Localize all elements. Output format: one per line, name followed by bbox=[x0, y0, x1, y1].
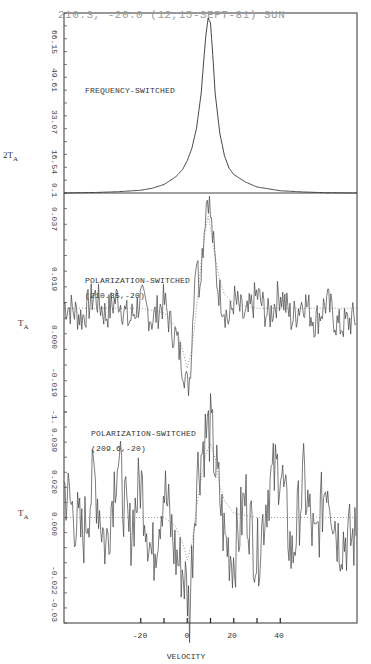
panel-1-ylabel-sub: A bbox=[13, 155, 18, 163]
panel-1-ytick: 49.61 bbox=[50, 68, 59, 92]
panel-3-ytick: 0.020 bbox=[50, 470, 59, 494]
panel-2-title: POLARIZATION-SWITCHED bbox=[85, 276, 190, 285]
panel-3-ytick: 0.000 bbox=[50, 512, 59, 536]
frequency-switched-curve bbox=[64, 18, 357, 193]
panel-2-subtitle: (210.35,-20) bbox=[85, 291, 145, 300]
panel-2-ytick: 0.000 bbox=[50, 325, 59, 349]
panel-1-ylabel-text: 2T bbox=[3, 150, 13, 160]
spectra-figure: 210.3, -20.0 (12,15-SEPT-81) SUN FREQUEN… bbox=[0, 0, 371, 664]
panel-3-ytick: -0.03 bbox=[50, 598, 59, 622]
panel-3-title: POLARIZATION-SWITCHED bbox=[91, 429, 196, 438]
panel-3-ylabel: TA bbox=[18, 508, 29, 521]
panel-1-ytick: 66.15 bbox=[50, 30, 59, 54]
x-tick-label: 20 bbox=[227, 631, 237, 640]
panel-1-ytick: 33.07 bbox=[50, 110, 59, 134]
panel-2-ytick: -1. bbox=[50, 410, 59, 424]
figure-header: 210.3, -20.0 (12,15-SEPT-81) SUN bbox=[58, 9, 285, 21]
x-tick-label: 40 bbox=[274, 631, 284, 640]
polarization-model-curve bbox=[64, 444, 357, 560]
panel-3-ytick: -0.022 bbox=[50, 566, 59, 595]
panel-3-ytick: 0.039 bbox=[50, 428, 59, 452]
x-tick-label: -20 bbox=[133, 631, 147, 640]
panel-1-ylabel: 2TA bbox=[3, 150, 18, 163]
panel-2-ytick: -0.019 bbox=[50, 368, 59, 397]
panel-2-ylabel: TA bbox=[18, 318, 29, 331]
panel-1-ytick: 16.54 bbox=[50, 150, 59, 174]
x-tick-label: 0 bbox=[185, 631, 190, 640]
panel-2-ylabel-sub: A bbox=[24, 323, 29, 331]
panel-2-ytick: 0.019 bbox=[50, 267, 59, 291]
panel-1-title: FREQUENCY-SWITCHED bbox=[85, 86, 175, 95]
panel-3-subtitle: (209.6,-20) bbox=[91, 444, 146, 453]
x-axis-label: VELOCITY bbox=[167, 652, 205, 661]
panel-2-ytick: 0.037 bbox=[50, 207, 59, 231]
panel-3-ylabel-sub: A bbox=[24, 513, 29, 521]
panel-1-ytick: 0.1 bbox=[50, 183, 59, 197]
